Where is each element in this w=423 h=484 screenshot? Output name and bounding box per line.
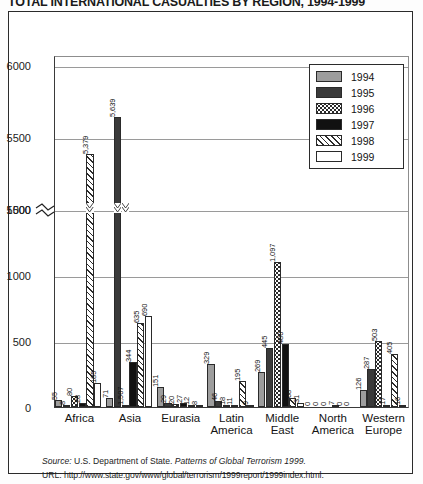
bar-value-label: 5,379	[82, 136, 90, 154]
legend-swatch-icon	[316, 71, 342, 82]
source-text: U.S. Department of State.	[74, 456, 172, 466]
bar-group: 55880285,379185	[55, 57, 106, 407]
bar-value-label: 17	[379, 397, 387, 405]
bar-value-label: 503	[371, 328, 379, 340]
bar-break-notch	[122, 203, 129, 213]
bar-value-label: 0	[343, 402, 351, 406]
y-axis-tick-label: 1000	[7, 270, 31, 282]
legend-label: 1996	[351, 103, 374, 115]
bar-value-label: 9	[242, 401, 250, 405]
bar: 5,639	[114, 117, 121, 407]
chart-frame: 55880285,379185715,6391,5073446356901512…	[8, 11, 413, 474]
legend-swatch-icon	[316, 87, 342, 98]
legend-label: 1997	[351, 119, 374, 131]
legend-item[interactable]: 1997	[316, 118, 397, 131]
bar-value-label: 8	[191, 401, 199, 405]
bar: 20	[172, 404, 179, 407]
url-value[interactable]: http://www.state.gov/www/global/terroris…	[64, 470, 324, 480]
y-axis-tick-label: 500	[13, 336, 31, 348]
bar-value-label: 329	[203, 351, 211, 363]
bar-value-label: 445	[261, 336, 269, 348]
bar: 445	[266, 348, 273, 407]
page-title: TOTAL INTERNATIONAL CASUALTIES BY REGION…	[8, 0, 418, 9]
bar-value-label: 405	[386, 341, 394, 353]
bar-group: 3294618111959	[207, 57, 258, 407]
bar-break-notch	[114, 203, 121, 213]
url-line: URL: http://www.state.gov/www/global/ter…	[42, 469, 412, 482]
bar-value-label: 287	[363, 357, 371, 369]
x-axis-label: WesternEurope	[350, 412, 417, 436]
legend-label: 1999	[351, 151, 374, 163]
legend-swatch-icon	[316, 119, 342, 130]
legend-swatch-icon	[316, 103, 342, 114]
bar: 12	[188, 405, 195, 407]
y-axis-tick-label: 0	[25, 402, 31, 414]
bar: 635	[137, 323, 144, 407]
bar: 8	[63, 405, 70, 407]
bar-value-label: 31	[293, 395, 301, 403]
bar-break-notch	[86, 203, 93, 213]
bar: 11	[231, 405, 238, 407]
bar-value-label: 126	[355, 378, 363, 390]
bar-group: 715,6391,507344635690	[106, 57, 157, 407]
legend-item[interactable]: 1999	[316, 150, 397, 163]
y-axis-tick-label: 5500	[7, 132, 31, 144]
chart-footer: Source: U.S. Department of State. Patter…	[42, 455, 412, 481]
x-axis-label-line1: Western	[350, 412, 417, 424]
bar-value-label: 8	[59, 401, 67, 405]
bar: 16	[399, 405, 406, 407]
bar-group: 151292027128	[156, 57, 207, 407]
url-label: URL:	[42, 470, 62, 480]
legend-label: 1994	[351, 71, 374, 83]
bar: 344	[129, 362, 136, 407]
bar: 126	[360, 390, 367, 407]
legend-item[interactable]: 1994	[316, 70, 397, 83]
legend-item[interactable]: 1998	[316, 134, 397, 147]
bar-value-label: 71	[102, 389, 110, 397]
bar: 28	[79, 403, 86, 407]
legend-swatch-icon	[316, 135, 342, 146]
bar-value-label: 269	[254, 359, 262, 371]
x-axis-label-line2: Europe	[350, 424, 417, 436]
bar-value-label: 480	[277, 331, 285, 343]
bar-value-label: 55	[51, 392, 59, 400]
axis-break-icon	[35, 202, 55, 221]
legend-item[interactable]: 1995	[316, 86, 397, 99]
legend-item[interactable]: 1996	[316, 102, 397, 115]
bar: 287	[367, 369, 374, 407]
source-publication: Patterns of Global Terrorism 1999.	[175, 456, 306, 466]
bar: 690	[145, 316, 152, 407]
source-line: Source: U.S. Department of State. Patter…	[42, 455, 412, 468]
legend: 199419951996199719981999	[309, 64, 404, 169]
bar-value-label: 1,507	[117, 387, 125, 405]
bar-value-label: 1,097	[269, 244, 277, 262]
bar: 8	[196, 405, 203, 407]
bar: 17	[383, 405, 390, 407]
bar: 71	[106, 398, 113, 407]
legend-label: 1998	[351, 135, 374, 147]
bar-value-label: 195	[234, 369, 242, 381]
bar-value-label: 151	[152, 375, 160, 387]
source-label: Source:	[42, 456, 72, 466]
legend-label: 1995	[351, 87, 374, 99]
legend-swatch-icon	[316, 151, 342, 162]
bar: 5,379	[86, 154, 93, 407]
y-axis-tick-label: 6000	[7, 60, 31, 72]
bar-value-label: 16	[394, 397, 402, 405]
bar-value-label: 185	[90, 370, 98, 382]
bar: 269	[258, 372, 265, 408]
chart-page: TOTAL INTERNATIONAL CASUALTIES BY REGION…	[0, 0, 423, 484]
bar-group: 2694451,0974806831	[258, 57, 309, 407]
bar-value-label: 11	[226, 397, 234, 405]
y-axis-tick-label: 5000	[7, 204, 31, 216]
bar-value-label: 344	[125, 349, 133, 361]
bar: 1,507	[122, 405, 129, 407]
bar-value-label: 690	[141, 304, 149, 316]
bar-value-label: 28	[74, 395, 82, 403]
bar-value-label: 5,639	[109, 99, 117, 117]
bar: 9	[246, 405, 253, 407]
